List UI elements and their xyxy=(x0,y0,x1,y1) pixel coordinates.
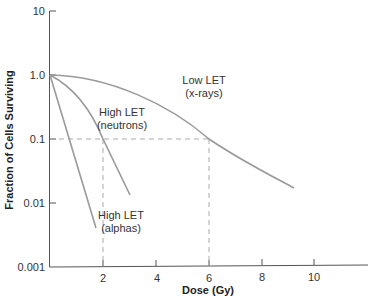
y-tick-1: 1.0 xyxy=(30,69,45,81)
x-tick-2: 2 xyxy=(100,272,106,284)
curve-alphas xyxy=(50,75,96,228)
label-xrays-line1: Low LET xyxy=(182,74,226,86)
y-tick-0.1: 0.1 xyxy=(30,133,45,145)
x-tick-8: 8 xyxy=(259,271,265,283)
survival-curve-chart: 10 1.0 0.1 0.01 0.001 2 4 6 8 10 Dose (G… xyxy=(0,0,371,296)
label-xrays-line2: (x-rays) xyxy=(185,87,222,99)
x-axis-title: Dose (Gy) xyxy=(182,284,234,296)
curve-neutrons xyxy=(50,75,130,195)
y-tick-0.001: 0.001 xyxy=(17,261,45,273)
label-neutrons-line1: High LET xyxy=(99,106,145,118)
label-alphas-line1: High LET xyxy=(98,209,144,221)
label-alphas-line2: (alphas) xyxy=(101,222,141,234)
x-tick-6: 6 xyxy=(206,272,212,284)
reference-lines xyxy=(50,139,209,266)
y-tick-10: 10 xyxy=(33,5,45,17)
label-neutrons-line2: (neutrons) xyxy=(97,119,147,131)
y-tick-0.01: 0.01 xyxy=(24,197,45,209)
x-tick-10: 10 xyxy=(308,271,320,283)
y-axis-title: Fraction of Cells Surviving xyxy=(3,70,15,209)
x-tick-4: 4 xyxy=(154,272,160,284)
curve-xrays xyxy=(50,75,294,188)
